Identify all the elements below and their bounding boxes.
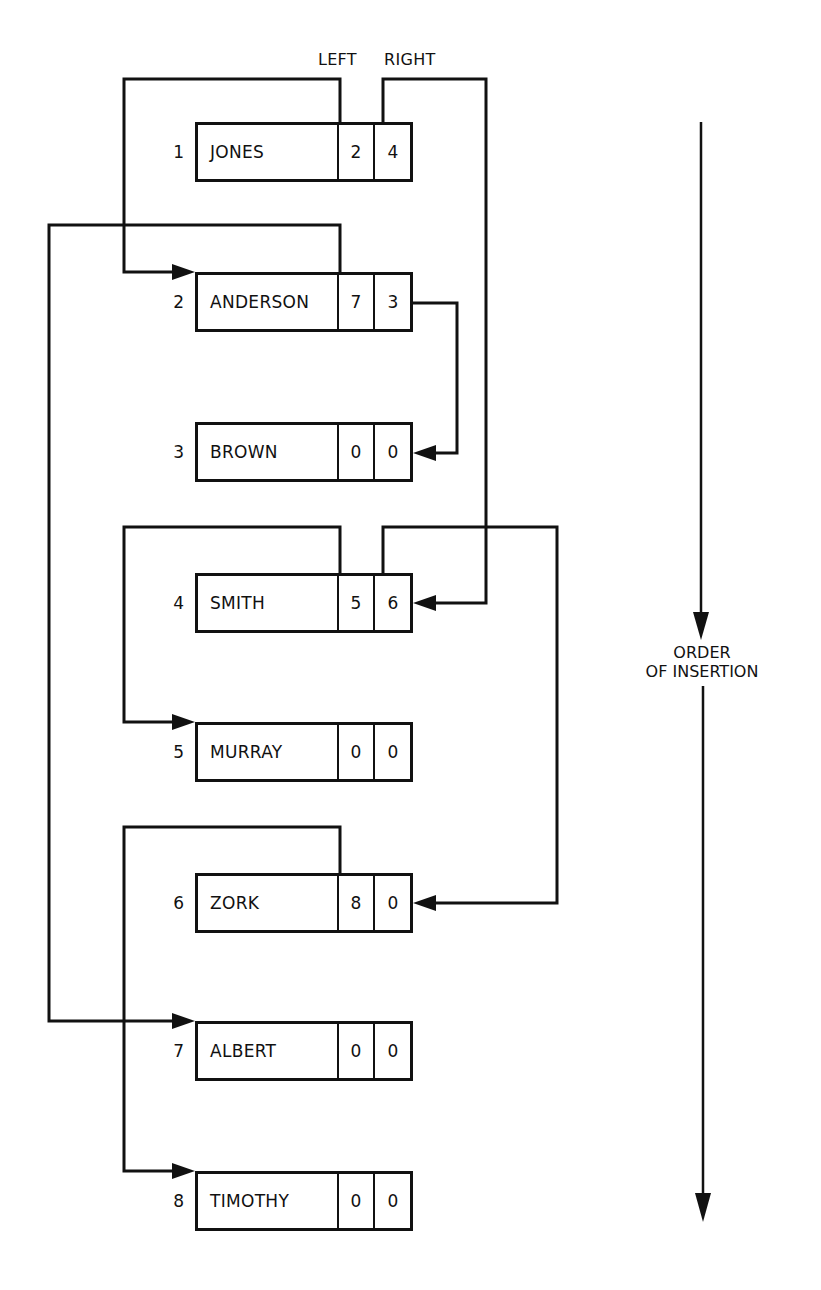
left-pointer-cell: 0 <box>339 425 375 479</box>
arrowhead-icon <box>172 1013 195 1029</box>
order-of-insertion-label: ORDER OF INSERTION <box>632 643 772 681</box>
tree-node-brown: BROWN 0 0 <box>195 422 413 482</box>
left-pointer-cell: 5 <box>339 576 375 630</box>
node-name: MURRAY <box>198 725 339 779</box>
arrow-down-icon <box>695 1193 711 1222</box>
right-pointer-cell: 0 <box>375 1174 411 1228</box>
right-pointer-header: RIGHT <box>384 50 436 69</box>
tree-node-anderson: ANDERSON 7 3 <box>195 272 413 332</box>
node-name: BROWN <box>198 425 339 479</box>
tree-node-murray: MURRAY 0 0 <box>195 722 413 782</box>
right-pointer-cell: 0 <box>375 876 411 930</box>
arrowhead-icon <box>172 1163 195 1179</box>
right-pointer-cell: 6 <box>375 576 411 630</box>
node-index: 1 <box>164 142 184 162</box>
tree-node-smith: SMITH 5 6 <box>195 573 413 633</box>
tree-node-albert: ALBERT 0 0 <box>195 1021 413 1081</box>
node-name: TIMOTHY <box>198 1174 339 1228</box>
tree-node-jones: JONES 2 4 <box>195 122 413 182</box>
node-index: 7 <box>164 1041 184 1061</box>
order-label-line1: ORDER <box>632 643 772 662</box>
arrowhead-icon <box>413 595 436 611</box>
right-pointer-cell: 0 <box>375 1024 411 1078</box>
right-pointer-cell: 4 <box>375 125 411 179</box>
arrowhead-icon <box>413 895 436 911</box>
node-name: JONES <box>198 125 339 179</box>
node-name: ZORK <box>198 876 339 930</box>
arrowhead-icon <box>413 445 436 461</box>
node-index: 8 <box>164 1191 184 1211</box>
arrow-down-icon <box>693 612 709 640</box>
order-label-line2: OF INSERTION <box>632 662 772 681</box>
arrowhead-icon <box>172 714 195 730</box>
node-index: 5 <box>164 742 184 762</box>
right-pointer-cell: 3 <box>375 275 411 329</box>
node-index: 6 <box>164 893 184 913</box>
node-name: ANDERSON <box>198 275 339 329</box>
left-pointer-cell: 2 <box>339 125 375 179</box>
node-index: 4 <box>164 593 184 613</box>
right-pointer-cell: 0 <box>375 425 411 479</box>
left-pointer-cell: 8 <box>339 876 375 930</box>
node-index: 2 <box>164 292 184 312</box>
right-pointer-cell: 0 <box>375 725 411 779</box>
arrowhead-icon <box>172 264 195 280</box>
tree-node-timothy: TIMOTHY 0 0 <box>195 1171 413 1231</box>
node-name: SMITH <box>198 576 339 630</box>
tree-node-zork: ZORK 8 0 <box>195 873 413 933</box>
left-pointer-header: LEFT <box>318 50 357 69</box>
node-index: 3 <box>164 442 184 462</box>
left-pointer-cell: 0 <box>339 1024 375 1078</box>
left-pointer-cell: 7 <box>339 275 375 329</box>
left-pointer-cell: 0 <box>339 725 375 779</box>
node-name: ALBERT <box>198 1024 339 1078</box>
connector-anderson-right-to-brown <box>413 303 457 453</box>
left-pointer-cell: 0 <box>339 1174 375 1228</box>
